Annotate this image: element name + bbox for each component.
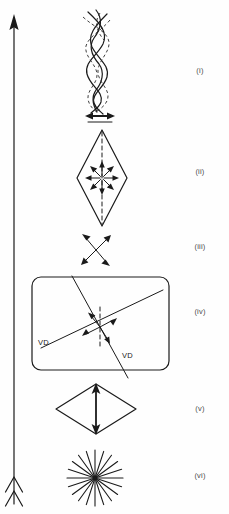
stage-label-i: (i) [196,66,204,75]
diagram-background [0,0,229,514]
stage-label-vi: (vi) [194,471,206,480]
figure-root: (i) [0,0,229,514]
stage-label-ii: (ii) [195,167,204,176]
starburst-center [93,476,97,480]
vd-label-left: VD [38,338,49,347]
stage-label-iv: (iv) [194,307,206,316]
stage-sequence-diagram: (i) [0,0,229,514]
vd-label-right: VD [122,351,133,360]
stage-label-v: (v) [195,404,205,413]
stage-label-iii: (iii) [195,242,206,251]
